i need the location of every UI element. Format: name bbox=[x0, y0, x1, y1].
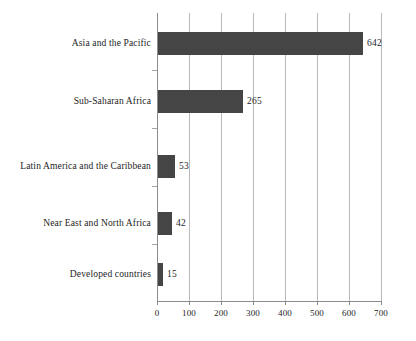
x-tick-label-400: 400 bbox=[270, 308, 300, 318]
category-label: Asia and the Pacific bbox=[72, 36, 151, 50]
x-tick-label-200: 200 bbox=[206, 308, 236, 318]
x-axis-tick-500 bbox=[317, 301, 318, 305]
bar-row-developed-countries: Developed countries 15 bbox=[0, 263, 416, 286]
bar-row-near-east-and-north-africa: Near East and North Africa 42 bbox=[0, 212, 416, 235]
bar-value-label: 15 bbox=[167, 268, 177, 281]
bar-latin-america-and-the-caribbean bbox=[158, 155, 175, 178]
x-axis-tick-200 bbox=[221, 301, 222, 305]
bar-asia-and-the-pacific bbox=[158, 32, 363, 55]
bar-row-latin-america-and-the-caribbean: Latin America and the Caribbean 53 bbox=[0, 155, 416, 178]
x-tick-label-600: 600 bbox=[334, 308, 364, 318]
category-separator-tick bbox=[152, 244, 157, 245]
x-axis-tick-300 bbox=[253, 301, 254, 305]
category-separator-tick bbox=[152, 128, 157, 129]
bar-chart: Asia and the Pacific 642 Sub-Saharan Afr… bbox=[0, 0, 416, 341]
bar-value-label: 53 bbox=[179, 160, 189, 173]
bar-row-asia-and-the-pacific: Asia and the Pacific 642 bbox=[0, 32, 416, 55]
bar-row-sub-saharan-africa: Sub-Saharan Africa 265 bbox=[0, 90, 416, 113]
x-axis-tick-700 bbox=[381, 301, 382, 305]
x-axis-tick-400 bbox=[285, 301, 286, 305]
category-label: Developed countries bbox=[70, 267, 151, 281]
bar-near-east-and-north-africa bbox=[158, 212, 172, 235]
category-label: Sub-Saharan Africa bbox=[74, 94, 151, 108]
x-axis-tick-600 bbox=[349, 301, 350, 305]
category-separator-tick bbox=[152, 186, 157, 187]
x-tick-label-0: 0 bbox=[142, 308, 172, 318]
x-axis-tick-100 bbox=[189, 301, 190, 305]
bar-sub-saharan-africa bbox=[158, 90, 243, 113]
bar-value-label: 265 bbox=[247, 95, 262, 108]
x-tick-label-700: 700 bbox=[366, 308, 396, 318]
x-axis-tick-0 bbox=[157, 301, 158, 305]
x-tick-label-100: 100 bbox=[174, 308, 204, 318]
bar-value-label: 642 bbox=[367, 37, 382, 50]
bar-value-label: 42 bbox=[176, 217, 186, 230]
bar-developed-countries bbox=[158, 263, 163, 286]
x-tick-label-500: 500 bbox=[302, 308, 332, 318]
category-label: Latin America and the Caribbean bbox=[20, 159, 151, 173]
x-tick-label-300: 300 bbox=[238, 308, 268, 318]
category-separator-tick bbox=[152, 70, 157, 71]
category-label: Near East and North Africa bbox=[43, 216, 151, 230]
